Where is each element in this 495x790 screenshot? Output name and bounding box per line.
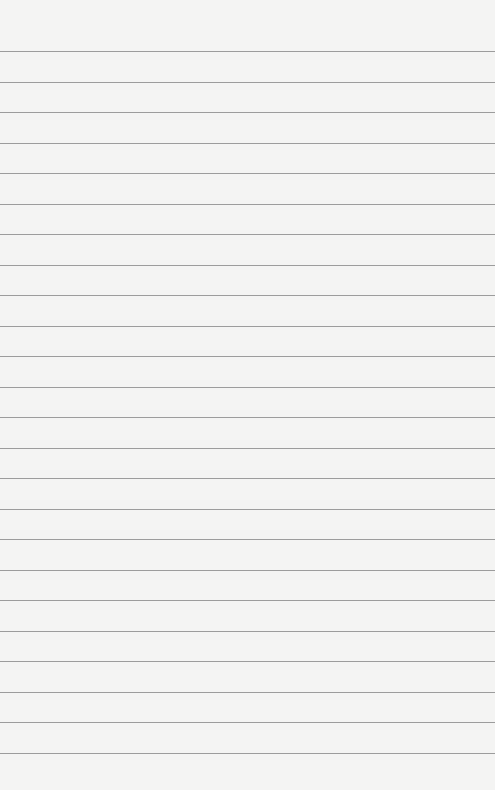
ruled-line bbox=[0, 448, 495, 449]
ruled-line bbox=[0, 539, 495, 540]
ruled-line bbox=[0, 631, 495, 632]
ruled-line bbox=[0, 600, 495, 601]
ruled-line bbox=[0, 204, 495, 205]
ruled-line bbox=[0, 722, 495, 723]
ruled-line bbox=[0, 143, 495, 144]
ruled-line bbox=[0, 417, 495, 418]
ruled-line bbox=[0, 478, 495, 479]
ruled-line bbox=[0, 295, 495, 296]
ruled-line bbox=[0, 234, 495, 235]
ruled-line bbox=[0, 265, 495, 266]
ruled-line bbox=[0, 173, 495, 174]
ruled-line bbox=[0, 326, 495, 327]
ruled-line bbox=[0, 387, 495, 388]
ruled-line bbox=[0, 82, 495, 83]
lined-paper bbox=[0, 0, 495, 790]
ruled-line bbox=[0, 356, 495, 357]
ruled-line bbox=[0, 51, 495, 52]
ruled-line bbox=[0, 112, 495, 113]
ruled-line bbox=[0, 692, 495, 693]
ruled-line bbox=[0, 509, 495, 510]
ruled-line bbox=[0, 570, 495, 571]
ruled-line bbox=[0, 661, 495, 662]
ruled-line bbox=[0, 753, 495, 754]
